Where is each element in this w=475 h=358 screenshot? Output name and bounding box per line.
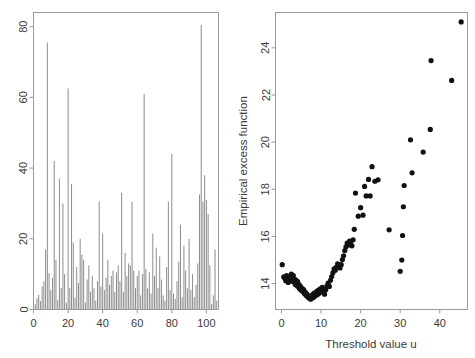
right-x-tick-labels: 010203040: [278, 317, 446, 329]
scatter-point: [428, 58, 433, 63]
scatter-point: [360, 213, 365, 218]
right-y-tick-labels: 141618202224: [260, 42, 272, 290]
left-bars: [35, 25, 217, 310]
scatter-point: [350, 237, 355, 242]
y-tick-label: 20: [18, 233, 30, 245]
right-scatter-points: [280, 19, 464, 301]
scatter-point: [368, 193, 373, 198]
scatter-point: [428, 127, 433, 132]
scatter-point: [401, 204, 406, 209]
right-panel-svg: 141618202224 010203040 Threshold value u…: [235, 0, 475, 358]
left-panel-barplot: 020406080 020406080100: [0, 0, 235, 358]
scatter-point: [408, 137, 413, 142]
scatter-point: [280, 262, 285, 267]
left-panel-svg: 020406080 020406080100: [0, 0, 235, 358]
y-tick-label: 20: [260, 136, 272, 148]
scatter-point: [327, 284, 332, 289]
x-tick-label: 30: [394, 317, 406, 329]
y-tick-label: 0: [18, 306, 30, 312]
left-plot-frame: [34, 13, 219, 310]
y-tick-label: 14: [260, 277, 272, 289]
left-x-tick-labels: 020406080100: [30, 317, 215, 329]
scatter-point: [399, 257, 404, 262]
scatter-point: [356, 214, 361, 219]
x-tick-label: 60: [131, 317, 143, 329]
right-panel-scatter: 141618202224 010203040 Threshold value u…: [235, 0, 475, 358]
left-y-tick-labels: 020406080: [18, 21, 30, 313]
scatter-point: [349, 243, 354, 248]
x-tick-label: 0: [30, 317, 36, 329]
scatter-point: [352, 227, 357, 232]
x-tick-label: 20: [354, 317, 366, 329]
y-axis-title: Empirical excess function: [237, 96, 249, 226]
scatter-point: [459, 19, 464, 24]
scatter-point: [375, 177, 380, 182]
y-tick-label: 60: [18, 91, 30, 103]
scatter-point: [387, 227, 392, 232]
scatter-point: [398, 269, 403, 274]
x-tick-label: 20: [62, 317, 74, 329]
x-axis-title: Threshold value u: [325, 338, 416, 350]
y-tick-label: 80: [18, 21, 30, 33]
x-tick-label: 100: [197, 317, 215, 329]
y-tick-label: 16: [260, 230, 272, 242]
x-tick-label: 40: [97, 317, 109, 329]
scatter-point: [400, 233, 405, 238]
scatter-point: [449, 78, 454, 83]
x-tick-label: 80: [166, 317, 178, 329]
y-tick-label: 22: [260, 89, 272, 101]
scatter-point: [402, 183, 407, 188]
scatter-point: [339, 262, 344, 267]
scatter-point: [358, 205, 363, 210]
scatter-point: [369, 164, 374, 169]
scatter-point: [362, 184, 367, 189]
y-tick-label: 18: [260, 183, 272, 195]
scatter-point: [366, 177, 371, 182]
scatter-point: [353, 190, 358, 195]
scatter-point: [341, 253, 346, 258]
statistical-figure: 020406080 020406080100 141618202224 0102…: [0, 0, 475, 358]
scatter-point: [409, 170, 414, 175]
x-tick-label: 10: [315, 317, 327, 329]
x-tick-label: 40: [434, 317, 446, 329]
scatter-point: [322, 292, 327, 297]
scatter-point: [421, 149, 426, 154]
y-tick-label: 24: [260, 42, 272, 54]
x-tick-label: 0: [278, 317, 284, 329]
right-tick-marks: [272, 48, 440, 314]
right-plot-frame: [276, 13, 468, 310]
y-tick-label: 40: [18, 162, 30, 174]
